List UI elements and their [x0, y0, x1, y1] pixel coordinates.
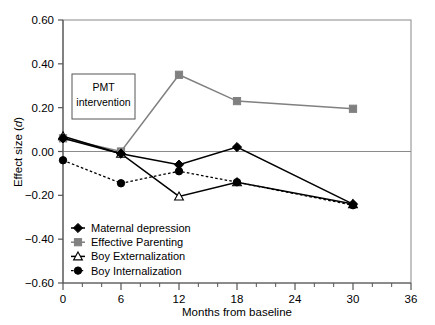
x-axis-ticks [63, 283, 411, 290]
x-tick-label: 18 [231, 293, 244, 305]
y-tick-label: −0.60 [25, 277, 54, 289]
effect-size-line-chart: −0.60−0.40−0.200.000.200.400.60 06121824… [0, 0, 435, 325]
chart-figure: −0.60−0.40−0.200.000.200.400.60 06121824… [0, 0, 435, 325]
series-marker [117, 180, 124, 187]
legend-marker [74, 239, 81, 246]
pmt-intervention-annotation: PMT intervention [72, 74, 135, 119]
legend-label: Boy Externalization [91, 250, 185, 262]
y-tick-label: 0.00 [32, 146, 54, 158]
y-tick-label: −0.40 [25, 233, 54, 245]
x-tick-label: 0 [60, 293, 66, 305]
svg-text:Effect size (d): Effect size (d) [12, 117, 24, 187]
y-tick-label: −0.20 [25, 189, 54, 201]
x-tick-label: 6 [118, 293, 124, 305]
x-tick-label: 36 [405, 293, 418, 305]
series-marker [59, 157, 66, 164]
y-axis-ticks [58, 20, 63, 283]
y-tick-label: 0.40 [32, 58, 54, 70]
x-axis-tick-labels: 061218243036 [60, 293, 418, 305]
y-axis-title-close: ) [12, 117, 24, 121]
series-marker [233, 178, 240, 185]
legend-marker [74, 267, 81, 274]
series-marker [233, 97, 240, 104]
y-tick-label: 0.20 [32, 102, 54, 114]
legend-label: Effective Parenting [91, 236, 183, 248]
x-tick-label: 24 [289, 293, 302, 305]
x-axis-title: Months from baseline [182, 306, 292, 318]
legend-label: Boy Internalization [91, 265, 182, 277]
y-tick-label: 0.60 [32, 14, 54, 26]
pmt-intervention-line2: intervention [76, 96, 130, 108]
y-axis-title-text: Effect size ( [12, 127, 24, 187]
pmt-intervention-line1: PMT [92, 81, 115, 93]
y-axis-tick-labels: −0.60−0.40−0.200.000.200.400.60 [25, 14, 54, 289]
x-tick-label: 30 [347, 293, 360, 305]
series-marker [349, 105, 356, 112]
x-tick-label: 12 [173, 293, 186, 305]
series-marker [175, 71, 182, 78]
y-axis-title: Effect size (d) [12, 117, 24, 187]
legend-label: Maternal depression [91, 222, 191, 234]
